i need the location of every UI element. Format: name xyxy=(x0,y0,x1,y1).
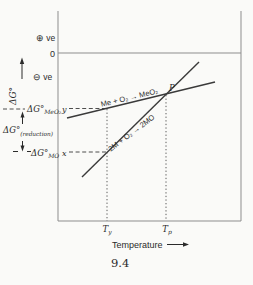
dg-meo2-sub: MeO₂ xyxy=(43,108,62,115)
y-axis-title: ΔG° xyxy=(8,87,18,106)
dg-mo-main: ΔG° xyxy=(30,148,48,158)
dg-meo2-label: ΔG°MeO₂ xyxy=(26,104,62,115)
dg-reduction-sub: (reduction) xyxy=(20,131,53,137)
point-x-label: x xyxy=(62,149,67,158)
point-y-label: y xyxy=(61,105,67,114)
ellingham-diagram: ⊕ ve 0 ⊖ ve ΔG° ΔG°MeO₂ ΔG°(reduction) Δ… xyxy=(0,0,253,285)
mo-reaction-label: 2M + O₂ → 2MO xyxy=(107,113,157,154)
zero-label: 0 xyxy=(50,49,55,59)
dg-mo-label: ΔG°MO xyxy=(30,148,59,159)
figure-caption: 9.4 xyxy=(111,256,129,270)
tick-ty-sub: y xyxy=(107,228,112,236)
figure-9-4: ⊕ ve 0 ⊖ ve ΔG° ΔG°MeO₂ ΔG°(reduction) Δ… xyxy=(0,0,253,285)
negative-ve-label: ⊖ ve xyxy=(33,72,53,82)
dg-mo-sub: MO xyxy=(47,152,59,159)
x-axis-right-arrow-icon xyxy=(167,242,189,247)
positive-ve-label: ⊕ ve xyxy=(36,33,56,43)
tick-tp: Tp xyxy=(162,224,172,236)
dg-meo2-main: ΔG° xyxy=(26,104,44,114)
dg-reduction-label: ΔG°(reduction) xyxy=(2,125,53,137)
dg-reduction-main: ΔG° xyxy=(2,125,20,135)
tick-ty: Ty xyxy=(102,224,112,236)
dg-axis-up-arrow-icon xyxy=(20,58,24,80)
meo2-oxidation-line xyxy=(67,82,215,118)
point-p-label: P xyxy=(168,83,175,93)
tick-tp-sub: p xyxy=(168,228,172,236)
x-axis-title: Temperature xyxy=(112,240,163,250)
